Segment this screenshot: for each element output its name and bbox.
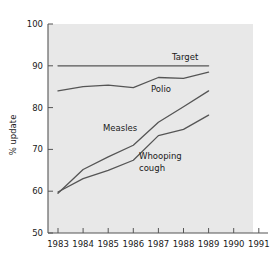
chart-container: 100 90 80 70 60 50 % update 1983 1984 19… <box>0 0 277 256</box>
y-tick-label-100: 100 <box>27 19 43 29</box>
series-label-whooping-cough-line2: cough <box>139 163 165 173</box>
y-axis-title: % update <box>8 115 18 156</box>
x-tick-label-1983: 1983 <box>47 239 69 249</box>
plot-area-background <box>48 24 253 233</box>
x-tick-label-1985: 1985 <box>97 239 119 249</box>
x-tick-label-1987: 1987 <box>148 239 170 249</box>
series-label-target: Target <box>171 52 199 62</box>
x-tick-label-1986: 1986 <box>122 239 144 249</box>
x-tick-label-1984: 1984 <box>72 239 94 249</box>
x-tick-label-1988: 1988 <box>173 239 195 249</box>
series-label-whooping-cough-line1: Whooping <box>139 151 182 161</box>
y-tick-label-70: 70 <box>32 144 43 154</box>
y-tick-label-60: 60 <box>32 186 43 196</box>
y-tick-label-80: 80 <box>32 103 43 113</box>
y-tick-label-50: 50 <box>32 228 43 238</box>
x-axis-tick-labels: 1983 1984 1985 1986 1987 1988 1989 1990 … <box>47 239 269 249</box>
line-chart: 100 90 80 70 60 50 % update 1983 1984 19… <box>0 0 277 256</box>
series-label-polio: Polio <box>151 84 171 94</box>
x-tick-label-1989: 1989 <box>198 239 220 249</box>
y-tick-label-90: 90 <box>32 61 43 71</box>
x-tick-label-1990: 1990 <box>223 239 245 249</box>
series-label-measles: Measles <box>103 123 138 133</box>
x-tick-label-1991: 1991 <box>248 239 270 249</box>
